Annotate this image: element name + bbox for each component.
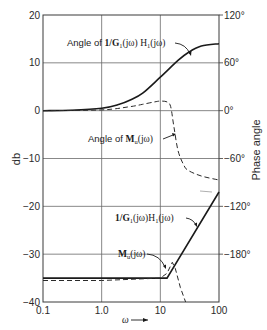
y-tick-label: −20 [23,201,40,212]
x-axis-ticks: 0.11.010100 [36,305,228,316]
svg-text:Angle of 1/G1(jω) H1(jω): Angle of 1/G1(jω) H1(jω) [67,37,165,49]
y2-tick-label: 60° [224,57,239,68]
x-tick-label: 1.0 [95,305,109,316]
leader-arrow-icon [163,135,173,139]
annotation-mag-g1h1: 1/G1(jω)H1(jω) [115,213,197,227]
y-tick-label: 10 [29,57,41,68]
x-axis-label: ω [122,315,148,325]
y-tick-label: −30 [23,249,40,260]
y-tick-label: −10 [23,153,40,164]
angle-g1h1-curve [43,44,219,111]
y2-tick-label: 0° [224,105,234,116]
series-lines [43,44,219,302]
y2-tick-label: −120° [224,201,251,212]
magnitude-g1h1-curve [43,192,219,278]
y-tick-label: 20 [29,10,41,21]
annotation-mag-mu: Mu(jω) [118,249,166,269]
x-tick-label: 0.1 [36,305,50,316]
x-tick-label: 10 [155,305,167,316]
stray-mark [200,191,212,192]
y2-axis-ticks: 120°60°0°−60°−120°−180° [219,10,251,260]
y2-tick-label: −60° [224,153,245,164]
svg-text:Mu(jω): Mu(jω) [118,249,145,260]
y-axis-label: db [10,153,22,165]
y-tick-label: 0 [34,105,40,116]
x-tick-label: 100 [211,305,228,316]
arrowhead-icon [143,318,148,322]
annotation-angle-g1h1: Angle of 1/G1(jω) H1(jω) [67,37,192,56]
svg-text:1/G1(jω)H1(jω): 1/G1(jω)H1(jω) [115,213,174,224]
y2-tick-label: −180° [224,249,251,260]
y-axis-ticks: 20100−10−20−30−40 [23,10,40,308]
svg-text:Angle of Mu(jω): Angle of Mu(jω) [88,133,153,145]
y2-axis-label: Phase angle [250,119,262,180]
magnitude-mu-curve [43,262,186,302]
leader-arrow-icon [147,254,165,267]
bode-plot: 20100−10−20−30−40 120°60°0°−60°−120°−180… [0,0,267,330]
annotation-angle-mu: Angle of Mu(jω) [88,133,176,145]
y2-tick-label: 120° [224,10,245,21]
omega-symbol: ω [122,315,129,325]
